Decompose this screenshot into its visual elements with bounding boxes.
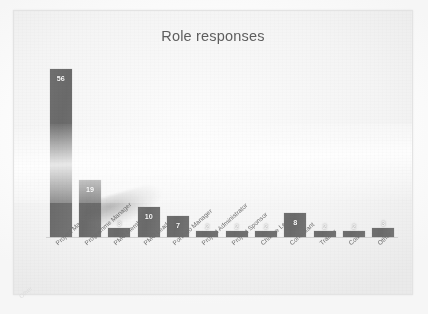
bar-pmo-leader: 10: [138, 57, 160, 237]
x-axis-line: [46, 237, 398, 238]
bar-consultant: 8: [284, 57, 306, 237]
bar-value-label: 3: [372, 219, 394, 228]
bar-value-label: 19: [79, 185, 101, 194]
photo-page-background: Role responses Number of respondents 561…: [0, 0, 428, 314]
bar-rect: 56: [50, 69, 72, 237]
bar-change-leader: 2: [255, 57, 277, 237]
chart-title: Role responses: [14, 28, 412, 44]
bar-trainer: 2: [314, 57, 336, 237]
bar-value-label: 56: [50, 74, 72, 83]
bar-other: 3: [372, 57, 394, 237]
bar-coach: 2: [343, 57, 365, 237]
bar-project-manager: 56: [50, 57, 72, 237]
bar-portfolio-manager: 7: [167, 57, 189, 237]
chart-card: Role responses Number of respondents 561…: [13, 10, 413, 295]
